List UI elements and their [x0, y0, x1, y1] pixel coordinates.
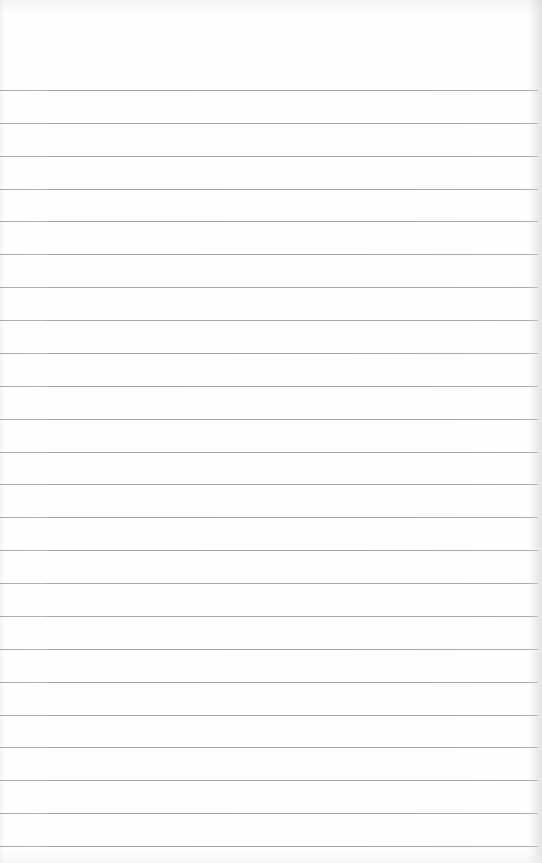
- ruled-line: [0, 221, 538, 222]
- ruled-line: [0, 386, 538, 387]
- ruled-line: [0, 123, 538, 124]
- ruled-line: [0, 452, 538, 453]
- ruled-line: [0, 780, 538, 781]
- ruled-line: [0, 254, 538, 255]
- ruled-line: [0, 287, 538, 288]
- paper-top-edge: [0, 0, 542, 14]
- ruled-line: [0, 156, 538, 157]
- ruled-line: [0, 583, 538, 584]
- ruled-line: [0, 846, 538, 847]
- ruled-line: [0, 419, 538, 420]
- paper-left-edge: [0, 0, 5, 863]
- ruled-line: [0, 747, 538, 748]
- ruled-line: [0, 90, 538, 91]
- ruled-line: [0, 813, 538, 814]
- ruled-line: [0, 715, 538, 716]
- paper-bottom-edge: [0, 849, 542, 863]
- paper-right-edge-shadow: [528, 0, 542, 863]
- ruled-line: [0, 517, 538, 518]
- notepad-page: [0, 0, 542, 863]
- ruled-line: [0, 550, 538, 551]
- ruled-line: [0, 189, 538, 190]
- ruled-line: [0, 320, 538, 321]
- ruled-line: [0, 649, 538, 650]
- ruled-line: [0, 484, 538, 485]
- ruled-line: [0, 682, 538, 683]
- ruled-line: [0, 616, 538, 617]
- ruled-line: [0, 353, 538, 354]
